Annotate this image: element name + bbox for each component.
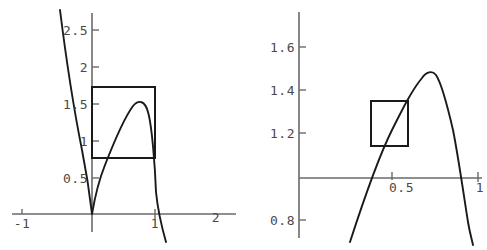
left-y-label-2.5: 2.5 xyxy=(63,23,88,38)
right-y-label-0.8: 0.8 xyxy=(270,213,295,228)
left-y-label-0.5: 0.5 xyxy=(63,171,88,186)
figure-container: 2.5 2 1.5 1 0.5 -1 1 2 xyxy=(0,0,487,250)
left-x-label-1: 1 xyxy=(151,216,159,231)
left-y-label-1: 1 xyxy=(80,134,88,149)
left-plot-panel: 2.5 2 1.5 1 0.5 -1 1 2 xyxy=(0,0,244,250)
right-x-label-1: 1 xyxy=(476,180,484,195)
right-y-label-1.6: 1.6 xyxy=(270,40,295,55)
right-plot-svg: 1.6 1.4 1.2 0.8 0.5 1 xyxy=(244,0,487,250)
right-plot-panel: 1.6 1.4 1.2 0.8 0.5 1 xyxy=(244,0,487,250)
left-curve xyxy=(60,10,166,242)
right-x-label-0.5: 0.5 xyxy=(389,180,414,195)
left-y-label-1.5: 1.5 xyxy=(63,97,88,112)
left-plot-svg: 2.5 2 1.5 1 0.5 -1 1 2 xyxy=(0,0,244,250)
right-curve xyxy=(350,72,473,245)
left-x-label-2: 2 xyxy=(212,210,220,225)
right-y-label-1.4: 1.4 xyxy=(270,83,295,98)
left-x-label--1: -1 xyxy=(14,216,31,231)
left-y-label-2: 2 xyxy=(80,60,88,75)
right-y-label-1.2: 1.2 xyxy=(270,126,295,141)
